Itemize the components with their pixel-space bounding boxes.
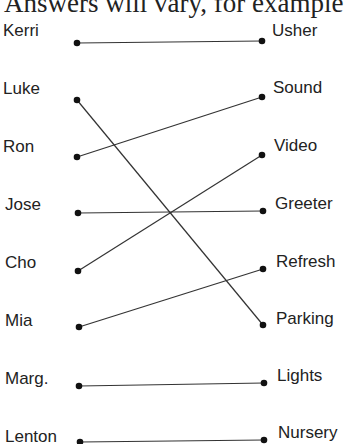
matching-lines — [0, 0, 352, 444]
dot-greeter — [260, 208, 267, 215]
dot-luke — [74, 97, 81, 104]
dot-nursery — [261, 437, 268, 444]
line-kerri-usher — [77, 41, 262, 43]
dot-video — [259, 152, 266, 159]
dot-mia — [76, 324, 83, 331]
line-marg-lights — [79, 383, 264, 386]
line-ron-sound — [77, 97, 262, 157]
dot-jose — [75, 210, 82, 217]
dot-usher — [259, 38, 266, 45]
dot-parking — [260, 322, 267, 329]
dot-cho — [75, 268, 82, 275]
dot-lights — [261, 380, 268, 387]
dot-marg — [76, 383, 83, 390]
dot-lenton — [77, 439, 84, 444]
dot-ron — [74, 154, 81, 161]
dot-kerri — [74, 40, 81, 47]
dot-refresh — [260, 266, 267, 273]
dot-sound — [259, 94, 266, 101]
line-mia-refresh — [79, 269, 263, 327]
line-lenton-nursery — [80, 440, 264, 442]
